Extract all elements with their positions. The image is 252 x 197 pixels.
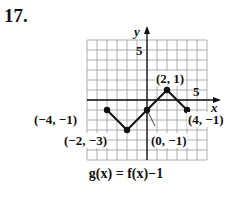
data-point <box>144 107 150 113</box>
data-point <box>164 87 170 93</box>
y-axis-label: y <box>132 24 140 39</box>
point-label: (−4, −1) <box>34 112 77 127</box>
point-labels: (−4, −1)(−2, −3)(0, −1)(2, 1)(4, −1) <box>34 71 225 148</box>
point-label: (−2, −3) <box>64 133 107 148</box>
function-caption: g(x) = f(x)−1 <box>0 166 252 182</box>
leader-line <box>148 112 155 126</box>
point-label: (2, 1) <box>156 71 184 86</box>
data-point <box>124 127 130 133</box>
point-label: (0, −1) <box>151 133 187 148</box>
y-tick-label: 5 <box>136 43 143 58</box>
x-tick-label: 5 <box>193 84 200 99</box>
y-axis-arrow-icon <box>144 26 150 34</box>
data-point <box>104 107 110 113</box>
point-label: (4, −1) <box>188 112 224 127</box>
